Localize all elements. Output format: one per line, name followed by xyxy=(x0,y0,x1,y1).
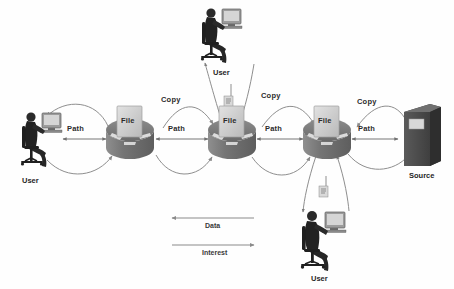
edge-label-copy-3: Copy xyxy=(357,97,377,106)
interest-arc-user-left-router-left xyxy=(47,156,112,174)
edge-label-path-3: Path xyxy=(265,124,282,133)
edge-label-copy-1: Copy xyxy=(161,95,181,104)
user-top-figure[interactable] xyxy=(201,8,242,63)
file-glyph-bottom xyxy=(319,186,328,197)
node-label-source: Source xyxy=(409,171,434,180)
source-server[interactable] xyxy=(404,104,441,166)
interest-arc-2 xyxy=(252,157,310,175)
edge-label-path-1: Path xyxy=(67,124,84,133)
node-label-user-left: User xyxy=(22,176,39,185)
user-bottom-figure[interactable] xyxy=(301,211,346,271)
interest-arc-1 xyxy=(156,155,212,174)
edge-label-path-2: Path xyxy=(168,124,185,133)
edge-label-path-4: Path xyxy=(358,124,375,133)
file-label-router-middle: File xyxy=(223,116,237,125)
network-caching-diagram: Path Path Path Path Copy Copy Copy User … xyxy=(0,0,454,289)
legend-label-data: Data xyxy=(205,222,220,229)
edge-label-copy-2: Copy xyxy=(261,91,281,100)
file-glyph-top xyxy=(224,96,233,107)
interest-arc-3 xyxy=(348,154,408,169)
interest-arc-user-bottom-router-right xyxy=(337,156,349,211)
vertical-link-bottom xyxy=(303,156,349,212)
file-label-router-right: File xyxy=(318,116,332,125)
diagram-canvas xyxy=(0,0,454,289)
node-label-user-bottom: User xyxy=(311,274,328,283)
interest-arcs xyxy=(156,154,408,175)
node-label-user-top: User xyxy=(213,68,230,77)
user-left-figure[interactable] xyxy=(21,112,62,167)
legend-label-interest: Interest xyxy=(202,249,227,256)
file-label-router-left: File xyxy=(121,116,135,125)
